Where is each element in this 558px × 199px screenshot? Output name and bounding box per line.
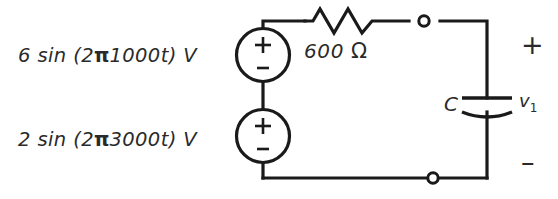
wire-source-top-to-resistor <box>263 21 305 28</box>
terminal-top-node-icon <box>419 16 429 26</box>
terminal-bottom-node-icon <box>428 173 438 183</box>
source-2-label: 2 sin (2π3000t) V <box>18 128 197 151</box>
source-1-amplitude: 6 <box>18 44 31 67</box>
source-2-frequency: 3000t) <box>109 128 176 151</box>
capacitor-symbol-label: C <box>444 92 458 116</box>
source-2-function: sin <box>37 128 66 151</box>
source-1-frequency: 1000t) <box>109 44 176 67</box>
wire-top-right <box>440 21 487 98</box>
circuit-diagram: 6 sin (2π1000t) V 2 sin (2π3000t) V 600 … <box>0 0 558 199</box>
resistor-symbol <box>305 9 409 33</box>
capacitor-voltage-label: v1 <box>519 90 537 115</box>
source-2-unit: V <box>183 128 197 151</box>
resistor-unit: Ω <box>351 39 368 63</box>
resistor-value: 600 <box>304 39 344 63</box>
output-minus-sign: – <box>521 148 535 175</box>
output-plus-sign: + <box>521 31 544 58</box>
voltage-source-2-symbol <box>237 110 290 163</box>
capacitor-voltage-symbol: v <box>519 90 530 111</box>
circuit-schematic-canvas <box>0 0 558 199</box>
source-1-function: sin <box>37 44 66 67</box>
resistor-value-label: 600 Ω <box>304 39 368 63</box>
source-1-unit: V <box>183 44 197 67</box>
source-1-label: 6 sin (2π1000t) V <box>18 44 197 67</box>
source-2-amplitude: 2 <box>18 128 31 151</box>
voltage-source-1-symbol <box>237 29 290 82</box>
capacitor-voltage-subscript: 1 <box>530 101 538 115</box>
